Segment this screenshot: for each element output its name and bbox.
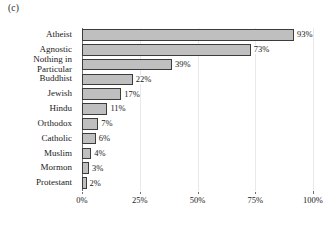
x-tick-label: 100%: [303, 195, 323, 205]
bar-row: 6%: [82, 131, 313, 146]
x-axis-line: [82, 191, 313, 192]
category-label: Orthodox: [0, 119, 72, 129]
bar-row: 11%: [82, 102, 313, 117]
bar-value-label: 39%: [175, 60, 192, 69]
bar: [82, 177, 87, 189]
category-label: Nothing in Particular: [0, 55, 72, 75]
bar-value-label: 73%: [253, 45, 270, 54]
bar-row: 4%: [82, 146, 313, 161]
chart-figure: (c) AtheistAgnosticNothing in Particular…: [0, 0, 331, 227]
bar: [82, 133, 96, 145]
bar: [82, 44, 251, 56]
bar: [82, 118, 98, 130]
x-tick-label: 50%: [190, 195, 206, 205]
x-tick-100%: [313, 191, 314, 194]
bar-row: 39%: [82, 57, 313, 72]
bar: [82, 59, 172, 71]
bar-row: 7%: [82, 116, 313, 131]
bar: [82, 148, 91, 160]
bar-value-label: 2%: [89, 179, 101, 188]
value-axis-labels: 0%25%50%75%100%: [0, 195, 331, 211]
category-axis-labels: AtheistAgnosticNothing in ParticularBudd…: [0, 28, 77, 191]
bar: [82, 103, 107, 115]
bar-row: 93%: [82, 28, 313, 43]
panel-label: (c): [8, 3, 19, 14]
bar-row: 73%: [82, 42, 313, 57]
gridline-100%: [313, 28, 314, 191]
bar-value-label: 7%: [101, 119, 113, 128]
x-tick-label: 0%: [76, 195, 87, 205]
bar-value-label: 93%: [296, 30, 313, 39]
bar-value-label: 11%: [110, 104, 126, 113]
bar: [82, 29, 294, 41]
bar-value-label: 6%: [98, 134, 110, 143]
bar-value-label: 22%: [135, 75, 152, 84]
bar-row: 17%: [82, 87, 313, 102]
category-label: Hindu: [0, 104, 72, 114]
category-label: Atheist: [0, 30, 72, 40]
bar-row: 3%: [82, 161, 313, 176]
category-label: Mormon: [0, 163, 72, 173]
x-tick-label: 25%: [132, 195, 148, 205]
category-label: Muslim: [0, 149, 72, 159]
bar: [82, 74, 133, 86]
x-tick-label: 75%: [247, 195, 263, 205]
category-label: Jewish: [0, 89, 72, 99]
plot-area: 93%73%39%22%17%11%7%6%4%3%2%: [82, 28, 313, 191]
bar: [82, 88, 121, 100]
category-label: Catholic: [0, 134, 72, 144]
category-label: Protestant: [0, 178, 72, 188]
category-label: Buddhist: [0, 74, 72, 84]
bar-value-label: 17%: [124, 90, 141, 99]
bar-value-label: 4%: [94, 149, 106, 158]
bar-row: 22%: [82, 72, 313, 87]
bar-series: 93%73%39%22%17%11%7%6%4%3%2%: [82, 28, 313, 191]
bar: [82, 162, 89, 174]
bar-value-label: 3%: [91, 164, 103, 173]
bar-row: 2%: [82, 176, 313, 191]
